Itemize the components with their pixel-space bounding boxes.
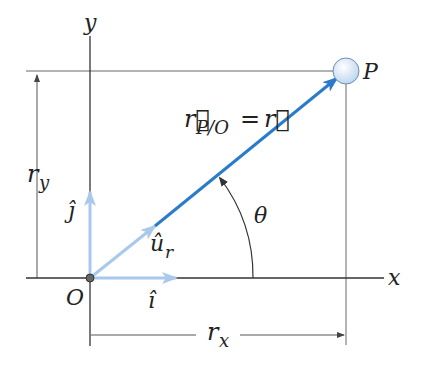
u-r-subscript: r [165,242,174,262]
j-hat-label: ĵ [64,198,76,223]
position-vector-figure: y x O P r y r x ĵ î û r θ r⃗ P/O = r⃗ [0,0,422,373]
ry-subscript: y [38,172,50,193]
position-vector-r [155,78,337,226]
vector-r-rhs: r⃗ [264,105,290,133]
equals-sign: = [240,105,260,133]
u-r-vector [90,226,155,278]
x-axis-label: x [388,265,401,290]
vector-r-subscript: P/O [195,117,229,138]
theta-label: θ [254,203,267,228]
y-axis-label: y [83,10,97,35]
origin-dot [86,274,94,282]
point-p [333,58,359,84]
origin-label: O [66,285,84,310]
i-hat-label: î [148,288,157,313]
u-r-label: û [150,231,164,256]
point-label: P [362,59,379,84]
rx-subscript: x [219,330,229,351]
theta-arc [220,178,253,278]
